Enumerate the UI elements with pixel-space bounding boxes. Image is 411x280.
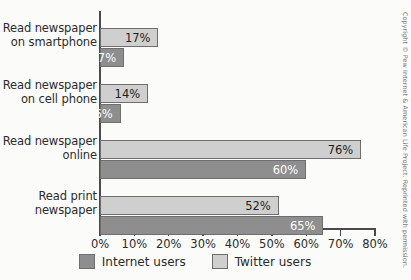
copyright-notice: Copyright © Pew Internet & American Life… (398, 0, 411, 280)
bar-internet-users-2: 60% (100, 160, 306, 179)
bar-internet-users-3: 65% (100, 216, 323, 235)
plot-area: 17%7%14%6%76%60%52%65% (100, 12, 375, 228)
x-tick-70pct (340, 229, 341, 236)
bar-value-label: 76% (328, 143, 361, 157)
bar-twitter-users-0: 17% (100, 28, 158, 47)
legend-label-internet-users: Internet users (102, 255, 186, 269)
bar-internet-users-0: 7% (100, 48, 124, 67)
x-tick-label-70pct: 70% (328, 237, 354, 251)
category-label-cellphone: Read newspaper on cell phone (0, 79, 97, 106)
bar-value-label: 6% (94, 107, 119, 121)
bar-twitter-users-3: 52% (100, 196, 279, 215)
x-tick-label-10pct: 10% (122, 237, 148, 251)
bar-value-label: 65% (290, 219, 323, 233)
legend-item-twitter-users: Twitter users (212, 254, 311, 269)
category-label-online: Read newspaper online (0, 135, 97, 162)
x-tick-label-60pct: 60% (293, 237, 319, 251)
bar-twitter-users-1: 14% (100, 84, 148, 103)
legend-item-internet-users: Internet users (79, 254, 186, 269)
legend-swatch-internet-users (79, 254, 95, 269)
copyright-text: Copyright © Pew Internet & American Life… (401, 12, 409, 268)
x-tick-label-0pct: 0% (91, 237, 109, 251)
bar-value-label: 60% (273, 163, 306, 177)
x-tick-label-40pct: 40% (225, 237, 251, 251)
category-label-smartphone: Read newspaper on smartphone (0, 22, 97, 49)
bar-value-label: 7% (98, 51, 123, 65)
bar-value-label: 52% (245, 199, 278, 213)
bar-value-label: 14% (115, 87, 148, 101)
category-label-print: Read print newspaper (0, 190, 97, 217)
chart-legend: Internet users Twitter users (0, 254, 390, 269)
x-tick-label-20pct: 20% (156, 237, 182, 251)
bar-internet-users-1: 6% (100, 104, 121, 123)
bar-chart: Read newspaper on smartphone Read newspa… (0, 0, 411, 280)
x-tick-label-80pct: 80% (362, 237, 388, 251)
x-tick-80pct (374, 229, 375, 236)
bar-value-label: 17% (125, 31, 158, 45)
x-tick-label-30pct: 30% (190, 237, 216, 251)
x-tick-label-50pct: 50% (259, 237, 285, 251)
legend-label-twitter-users: Twitter users (235, 255, 311, 269)
bar-twitter-users-2: 76% (100, 140, 361, 159)
legend-swatch-twitter-users (212, 254, 228, 269)
